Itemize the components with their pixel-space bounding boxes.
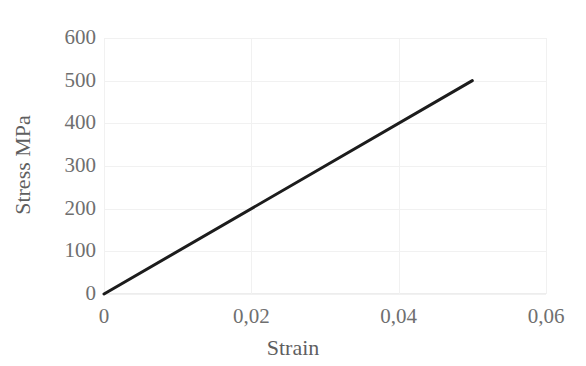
- gridline-horizontal-0: [104, 294, 546, 295]
- x-tick-label-0-06: 0,06: [501, 306, 586, 327]
- y-tick-label-100: 100: [40, 240, 96, 261]
- plot-area: [104, 38, 546, 294]
- y-tick-label-200: 200: [40, 198, 96, 219]
- x-tick-label-0: 0: [59, 306, 149, 327]
- x-axis-tick-labels: 00,020,040,06: [0, 306, 586, 336]
- x-axis-title: Strain: [0, 336, 586, 360]
- x-tick-label-0-02: 0,02: [206, 306, 296, 327]
- x-tick-label-0-04: 0,04: [354, 306, 444, 327]
- series-layer: [104, 38, 546, 294]
- y-tick-label-500: 500: [40, 70, 96, 91]
- series-line-stress-strain: [104, 81, 472, 294]
- y-tick-label-400: 400: [40, 112, 96, 133]
- y-tick-label-300: 300: [40, 155, 96, 176]
- y-tick-label-600: 600: [40, 27, 96, 48]
- y-axis-title-wrapper: Stress MPa: [6, 0, 40, 330]
- gridline-vertical-0,06: [546, 38, 547, 294]
- y-tick-label-0: 0: [40, 283, 96, 304]
- stress-strain-chart: 0100200300400500600 00,020,040,06 Strain…: [0, 0, 586, 366]
- y-axis-title: Stress MPa: [11, 115, 35, 215]
